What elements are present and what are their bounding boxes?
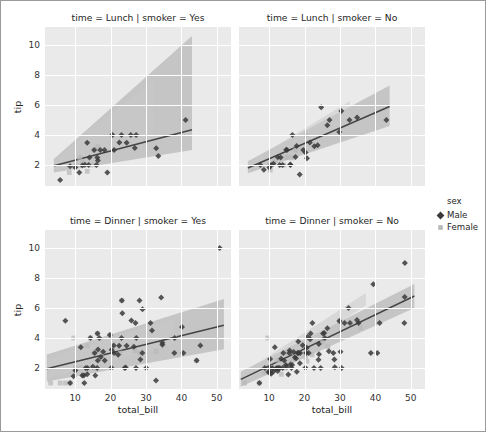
gridline-horizontal <box>239 368 425 369</box>
gridline-vertical <box>305 230 306 389</box>
y-tick-label: 6 <box>34 100 40 110</box>
gridline-vertical <box>305 27 306 186</box>
gridline-horizontal <box>45 248 231 249</box>
gridline-vertical <box>75 230 76 389</box>
gridline-vertical <box>181 27 182 186</box>
gridline-horizontal <box>239 308 425 309</box>
square-marker-icon <box>433 223 447 232</box>
facet-panel-dinner-no: time = Dinner | smoker = No total_bill 1… <box>239 230 425 389</box>
data-point-male <box>297 360 303 366</box>
data-point-male <box>294 369 300 375</box>
y-tick-label: 10 <box>29 243 40 253</box>
data-point-female <box>242 381 247 386</box>
x-tick-label: 50 <box>405 393 416 403</box>
gridline-horizontal <box>45 135 231 136</box>
gridline-horizontal <box>45 165 231 166</box>
data-point-female <box>67 170 72 175</box>
gridline-vertical <box>411 230 412 389</box>
data-point-male <box>368 350 374 356</box>
data-point-male <box>402 260 408 266</box>
x-tick-label: 40 <box>370 393 381 403</box>
data-point-female <box>58 381 63 386</box>
facet-panel-lunch-no: time = Lunch | smoker = No <box>239 27 425 186</box>
plot-layer <box>45 27 231 186</box>
gridline-vertical <box>217 230 218 389</box>
legend-label-female: Female <box>447 222 478 232</box>
gridline-vertical <box>269 27 270 186</box>
data-point-male <box>158 295 164 301</box>
gridline-horizontal <box>239 45 425 46</box>
x-tick-label: 50 <box>211 393 222 403</box>
legend-title: sex <box>447 196 486 206</box>
plot-area <box>239 27 425 186</box>
gridline-vertical <box>181 230 182 389</box>
legend-entry-male[interactable]: Male <box>433 209 486 221</box>
gridline-vertical <box>375 27 376 186</box>
gridline-vertical <box>111 27 112 186</box>
y-tick-label: 4 <box>34 130 40 140</box>
data-point-male <box>316 357 322 363</box>
x-tick-label: 30 <box>334 393 345 403</box>
gridline-horizontal <box>239 165 425 166</box>
gridline-horizontal <box>45 338 231 339</box>
data-point-male <box>137 298 143 304</box>
gridline-vertical <box>340 27 341 186</box>
data-point-female <box>63 381 68 386</box>
diamond-marker-icon <box>433 211 447 220</box>
x-axis-label: total_bill <box>45 404 231 415</box>
gridline-horizontal <box>45 308 231 309</box>
plot-layer <box>45 230 231 389</box>
data-point-male <box>297 172 303 178</box>
plot-area <box>45 27 231 186</box>
gridline-vertical <box>146 230 147 389</box>
gridline-horizontal <box>239 75 425 76</box>
data-point-female <box>48 381 53 386</box>
data-point-female <box>358 326 363 331</box>
data-point-male <box>76 170 82 176</box>
y-axis-label: tip <box>12 100 23 112</box>
panel-title: time = Lunch | smoker = No <box>239 12 425 23</box>
panel-title: time = Dinner | smoker = No <box>239 215 425 226</box>
x-axis-label: total_bill <box>239 404 425 415</box>
gridline-vertical <box>111 230 112 389</box>
gridline-horizontal <box>45 278 231 279</box>
panel-title: time = Lunch | smoker = Yes <box>45 12 231 23</box>
x-tick-label: 30 <box>140 393 151 403</box>
gridline-horizontal <box>45 105 231 106</box>
data-point-female <box>85 169 90 174</box>
y-tick-label: 8 <box>34 273 40 283</box>
y-tick-label: 10 <box>29 40 40 50</box>
gridline-horizontal <box>239 135 425 136</box>
data-point-female <box>154 349 159 354</box>
data-point-male <box>62 318 68 324</box>
facet-panel-dinner-yes: time = Dinner | smoker = Yes tip total_b… <box>45 230 231 389</box>
data-point-male <box>92 373 98 379</box>
gridline-vertical <box>375 230 376 389</box>
panel-title: time = Dinner | smoker = Yes <box>45 215 231 226</box>
data-point-male <box>272 344 278 350</box>
legend-entry-female[interactable]: Female <box>433 221 486 233</box>
x-tick-label: 10 <box>263 393 274 403</box>
data-point-male <box>119 310 125 316</box>
plot-area <box>45 230 231 389</box>
plot-layer <box>239 230 425 389</box>
data-point-female <box>293 148 298 153</box>
data-point-male <box>81 380 87 386</box>
data-point-female <box>279 372 284 377</box>
plot-area <box>239 230 425 389</box>
data-point-male <box>153 377 159 383</box>
x-tick-label: 20 <box>299 393 310 403</box>
gridline-vertical <box>217 27 218 186</box>
x-tick-label: 20 <box>105 393 116 403</box>
gridline-horizontal <box>239 338 425 339</box>
gridline-horizontal <box>45 75 231 76</box>
data-point-female <box>85 343 90 348</box>
y-axis-label: tip <box>12 303 23 315</box>
gridline-horizontal <box>45 368 231 369</box>
facet-panel-lunch-yes: time = Lunch | smoker = Yes tip 246810 <box>45 27 231 186</box>
gridline-horizontal <box>239 105 425 106</box>
y-tick-label: 4 <box>34 333 40 343</box>
legend-label-male: Male <box>447 210 467 220</box>
gridline-vertical <box>411 27 412 186</box>
data-point-female <box>78 155 83 160</box>
